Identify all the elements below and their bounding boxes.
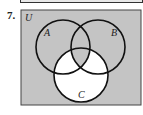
set-a-label: A <box>43 27 51 38</box>
set-b-label: B <box>111 27 117 38</box>
set-c-label: C <box>78 89 85 100</box>
universe-label: U <box>25 12 33 23</box>
venn-diagram: U A B C <box>0 0 143 115</box>
